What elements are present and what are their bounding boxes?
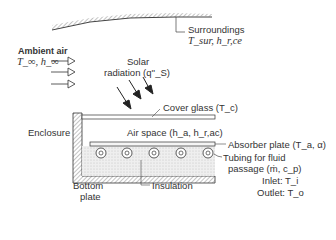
solar-label-2: radiation (q''_S): [104, 67, 170, 78]
air-space-label: Air space (h_a, h_r,ac): [127, 127, 223, 138]
surroundings-label: Surroundings: [188, 24, 245, 35]
bottom-plate-label-2: plate: [80, 191, 101, 202]
bottom-plate-label-1: Bottom: [73, 180, 103, 191]
insulation-label: Insulation: [152, 180, 193, 191]
surroundings-vars: T_sur, h_r,ce: [188, 35, 242, 46]
ambient-air-vars: T_∞, h_∞: [17, 56, 59, 67]
cover-glass-label: Cover glass (T_c): [163, 102, 238, 113]
solar-radiation-arrows: [117, 77, 153, 109]
outlet-label: Outlet: T_o: [257, 187, 304, 198]
enclosure-label: Enclosure: [28, 127, 70, 138]
inlet-label: Inlet: T_i: [262, 175, 298, 186]
solar-label-1: Solar: [127, 56, 149, 67]
tubing-label-1: Tubing for fluid: [223, 152, 286, 163]
absorber-plate: [90, 142, 226, 146]
tubing-label-2: passage (ṁ, c_p): [228, 163, 301, 174]
absorber-plate-label: Absorber plate (T_a, α): [228, 139, 326, 150]
